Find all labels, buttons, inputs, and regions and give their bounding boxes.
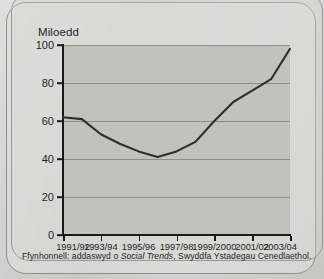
series-polyline xyxy=(63,49,290,157)
x-tick-mark-0 xyxy=(63,236,65,241)
x-tick-mark-2 xyxy=(139,236,141,241)
y-axis-label: Miloedd xyxy=(38,26,79,38)
x-tick-mark-1 xyxy=(101,236,103,241)
x-tick-mark-5 xyxy=(252,236,254,241)
y-tick-label-80: 80 xyxy=(26,77,54,89)
footnote-source-title: Social Trends xyxy=(121,251,174,261)
data-series-line xyxy=(63,45,290,235)
y-tick-label-20: 20 xyxy=(26,191,54,203)
y-tick-label-100: 100 xyxy=(26,39,54,51)
footnote-prefix: Ffynhonnell: addaswyd o xyxy=(22,251,121,261)
x-tick-mark-4 xyxy=(214,236,216,241)
y-tick-label-60: 60 xyxy=(26,115,54,127)
x-tick-mark-3 xyxy=(177,236,179,241)
line-chart: Miloedd 020406080100 1991/921993/941995/… xyxy=(0,0,324,279)
x-tick-mark-6 xyxy=(290,236,292,241)
footnote-suffix: , Swyddfa Ystadegau Cenedlaethol. xyxy=(173,251,311,261)
source-footnote: Ffynhonnell: addaswyd o Social Trends, S… xyxy=(22,251,312,261)
y-tick-label-40: 40 xyxy=(26,153,54,165)
y-tick-label-0: 0 xyxy=(26,229,54,241)
